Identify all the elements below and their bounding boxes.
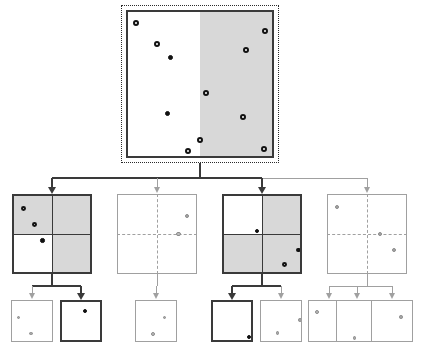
root-stem bbox=[199, 163, 201, 178]
quadrant-tl bbox=[327, 194, 367, 234]
level3-stem-2 bbox=[157, 274, 158, 286]
level2-link-2 bbox=[157, 178, 158, 187]
quadrant-tr bbox=[367, 194, 407, 234]
quadrant-tl bbox=[12, 194, 52, 234]
level3-link-2 bbox=[80, 286, 82, 293]
node-l3-8[interactable] bbox=[371, 300, 413, 342]
region-plane bbox=[11, 300, 53, 342]
data-point bbox=[243, 47, 249, 53]
node-l2-3[interactable] bbox=[222, 194, 302, 274]
quadrant-br bbox=[262, 234, 302, 274]
connector-arrow bbox=[228, 293, 236, 300]
quadrant-bl bbox=[327, 234, 367, 274]
connector-arrow bbox=[77, 293, 85, 300]
data-point bbox=[240, 114, 246, 120]
data-point bbox=[261, 146, 267, 152]
connector-arrow bbox=[153, 293, 159, 299]
region-plane bbox=[126, 10, 274, 158]
quadrant-br bbox=[52, 234, 92, 274]
data-point bbox=[32, 222, 37, 227]
level2-link-1 bbox=[51, 178, 53, 187]
level2-link-4 bbox=[367, 178, 368, 187]
connector-arrow bbox=[29, 293, 35, 299]
horizontal-split-line bbox=[12, 234, 92, 235]
region-plane bbox=[222, 194, 302, 274]
diagram-canvas bbox=[0, 0, 425, 351]
connector-arrow bbox=[154, 187, 160, 193]
node-l2-1[interactable] bbox=[12, 194, 92, 274]
root-node[interactable] bbox=[126, 10, 274, 158]
data-point bbox=[185, 148, 191, 154]
node-l3-3[interactable] bbox=[135, 300, 177, 342]
node-l2-2[interactable] bbox=[117, 194, 197, 274]
data-point bbox=[378, 232, 382, 236]
level3-bus-3 bbox=[232, 285, 281, 287]
node-l3-2[interactable] bbox=[60, 300, 102, 342]
connector-arrow bbox=[354, 293, 360, 299]
level3-link-6 bbox=[329, 286, 330, 293]
data-point bbox=[353, 336, 357, 340]
horizontal-split-line bbox=[117, 234, 197, 235]
quadrant-bl bbox=[126, 84, 200, 158]
level2-link-3 bbox=[261, 178, 263, 187]
data-point bbox=[262, 28, 268, 34]
region-plane bbox=[60, 300, 102, 342]
horizontal-split-line bbox=[327, 234, 407, 235]
region-plane bbox=[12, 194, 92, 274]
level3-link-5 bbox=[281, 286, 282, 293]
region-plane bbox=[117, 194, 197, 274]
data-point bbox=[282, 262, 287, 267]
quadrant-tl bbox=[117, 194, 157, 234]
quadrant-bl bbox=[222, 234, 262, 274]
connector-arrow bbox=[389, 293, 395, 299]
quadrant-tr bbox=[200, 10, 274, 84]
level3-link-7 bbox=[357, 286, 358, 293]
level2-bus-inactive bbox=[262, 178, 367, 179]
data-point bbox=[276, 331, 280, 335]
level3-link-3 bbox=[156, 286, 157, 293]
node-l3-5[interactable] bbox=[260, 300, 302, 342]
node-l2-4[interactable] bbox=[327, 194, 407, 274]
data-point bbox=[151, 332, 155, 336]
connector-arrow bbox=[364, 187, 370, 193]
data-point bbox=[21, 206, 26, 211]
data-point bbox=[163, 316, 167, 320]
horizontal-split-line bbox=[222, 234, 302, 235]
data-point bbox=[176, 232, 181, 237]
quadrant-tr bbox=[52, 194, 92, 234]
connector-arrow bbox=[326, 293, 332, 299]
node-l3-4[interactable] bbox=[211, 300, 253, 342]
level3-bus-4 bbox=[329, 286, 392, 287]
node-l3-1[interactable] bbox=[11, 300, 53, 342]
level3-link-4 bbox=[231, 286, 233, 293]
quadrant-tr bbox=[157, 194, 197, 234]
quadrant-br bbox=[367, 234, 407, 274]
data-point bbox=[83, 309, 87, 313]
data-point bbox=[29, 332, 33, 336]
data-point bbox=[40, 238, 45, 243]
quadrant-br bbox=[157, 234, 197, 274]
connector-arrow bbox=[278, 293, 284, 299]
region-plane bbox=[211, 300, 253, 342]
connector-arrow bbox=[258, 187, 266, 194]
data-point bbox=[315, 310, 319, 314]
quadrant-bl bbox=[117, 234, 157, 274]
data-point bbox=[298, 318, 302, 322]
level3-link-1 bbox=[32, 286, 33, 293]
region-plane bbox=[135, 300, 177, 342]
region-plane bbox=[327, 194, 407, 274]
quadrant-bl bbox=[12, 234, 52, 274]
connector-arrow bbox=[48, 187, 56, 194]
data-point bbox=[399, 315, 403, 319]
level3-stem-4 bbox=[367, 274, 368, 286]
region-plane bbox=[260, 300, 302, 342]
quadrant-tr bbox=[262, 194, 302, 234]
level3-link-8 bbox=[392, 286, 393, 293]
region-plane bbox=[371, 300, 413, 342]
data-point bbox=[203, 90, 209, 96]
level3-bus-1 bbox=[32, 285, 81, 287]
data-point bbox=[247, 335, 251, 339]
data-point bbox=[17, 316, 21, 320]
